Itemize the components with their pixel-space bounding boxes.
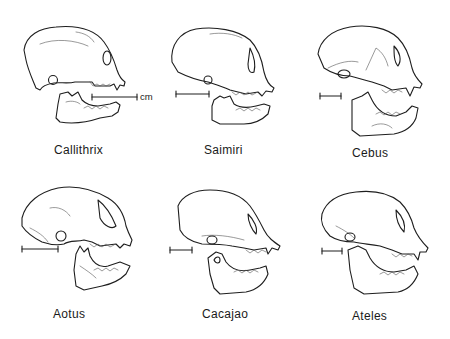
genus-label-cacajao: Cacajao — [202, 307, 248, 321]
panel-cebus: Cebus — [300, 0, 450, 170]
panel-saimiri: Saimiri — [150, 0, 300, 170]
panel-ateles: Ateles — [300, 170, 450, 339]
genus-label-aotus: Aotus — [53, 307, 85, 321]
genus-label-saimiri: Saimiri — [204, 143, 243, 157]
genus-label-ateles: Ateles — [352, 309, 387, 323]
panel-aotus: Aotus — [0, 170, 160, 339]
genus-label-callithrix: Callithrix — [54, 143, 103, 157]
panel-cacajao: Cacajao — [150, 170, 300, 339]
genus-label-cebus: Cebus — [352, 146, 388, 160]
cebus-skull-drawing — [300, 0, 450, 170]
panel-callithrix: cm Callithrix — [0, 0, 160, 170]
